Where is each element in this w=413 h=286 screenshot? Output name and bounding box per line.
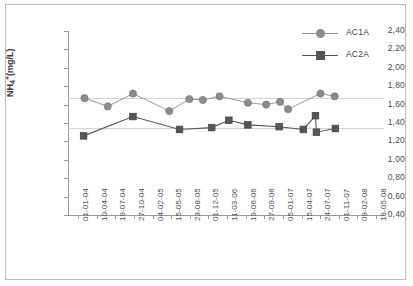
x-axis-tick-mark xyxy=(227,215,228,219)
x-axis-tick-mark xyxy=(97,215,98,219)
legend-marker-square-icon xyxy=(316,51,325,60)
data-point-ac1a xyxy=(129,90,136,97)
x-axis-tick-mark xyxy=(208,215,209,219)
data-point-ac2a xyxy=(208,124,215,131)
x-axis-tick-mark xyxy=(115,215,116,219)
data-point-ac2a xyxy=(332,125,339,132)
data-point-ac1a xyxy=(81,95,88,102)
data-point-ac1a xyxy=(263,101,270,108)
x-axis-tick-mark xyxy=(376,215,377,219)
x-axis-tick-mark xyxy=(246,215,247,219)
data-point-ac1a xyxy=(166,107,173,114)
legend-label: AC2A xyxy=(346,49,369,59)
x-axis-tick-mark xyxy=(134,215,135,219)
data-point-ac2a xyxy=(176,126,183,133)
data-point-ac1a xyxy=(104,103,111,110)
x-axis-tick-mark xyxy=(171,215,172,219)
y-axis-title-sub: 4 xyxy=(9,80,16,84)
x-axis-tick-mark xyxy=(302,215,303,219)
chart-legend: AC1AAC2A xyxy=(302,23,388,69)
legend-marker-circle-icon xyxy=(316,29,325,38)
x-axis-tick-mark xyxy=(264,215,265,219)
data-point-ac1a xyxy=(317,90,324,97)
data-point-ac2a xyxy=(80,133,87,140)
data-point-ac1a xyxy=(216,93,223,100)
x-axis-tick-mark xyxy=(357,215,358,219)
data-point-ac2a xyxy=(313,129,320,136)
data-point-ac1a xyxy=(199,96,206,103)
data-point-ac1a xyxy=(276,98,283,105)
data-point-ac1a xyxy=(331,93,338,100)
data-point-ac2a xyxy=(226,117,233,124)
x-axis-tick-mark xyxy=(153,215,154,219)
data-point-ac1a xyxy=(284,106,291,113)
data-point-ac2a xyxy=(245,122,252,129)
x-axis-tick-mark xyxy=(339,215,340,219)
y-axis-title-unit: (mg/L) xyxy=(5,49,15,77)
chart-frame: NH4+ (mg/L) 2,402,202,001,801,601,401,20… xyxy=(5,4,406,280)
x-axis-tick-mark xyxy=(320,215,321,219)
y-axis-title-base: NH xyxy=(5,84,15,97)
x-axis-tick-mark xyxy=(78,215,79,219)
legend-label: AC1A xyxy=(346,27,369,37)
data-point-ac2a xyxy=(300,126,307,133)
data-point-ac1a xyxy=(244,99,251,106)
x-axis-tick-mark xyxy=(190,215,191,219)
data-point-ac2a xyxy=(130,113,137,120)
data-point-ac1a xyxy=(186,95,193,102)
series-line-ac1a xyxy=(85,94,335,111)
y-axis-tick-mark xyxy=(64,215,68,216)
y-axis-title: NH4+ (mg/L) xyxy=(4,0,18,97)
legend-item-ac1a[interactable]: AC1A xyxy=(302,23,388,45)
x-axis-tick-mark xyxy=(283,215,284,219)
legend-item-ac2a[interactable]: AC2A xyxy=(302,45,388,67)
data-point-ac2a xyxy=(312,112,319,119)
data-point-ac2a xyxy=(276,123,283,130)
y-axis-title-sup: + xyxy=(4,76,11,80)
